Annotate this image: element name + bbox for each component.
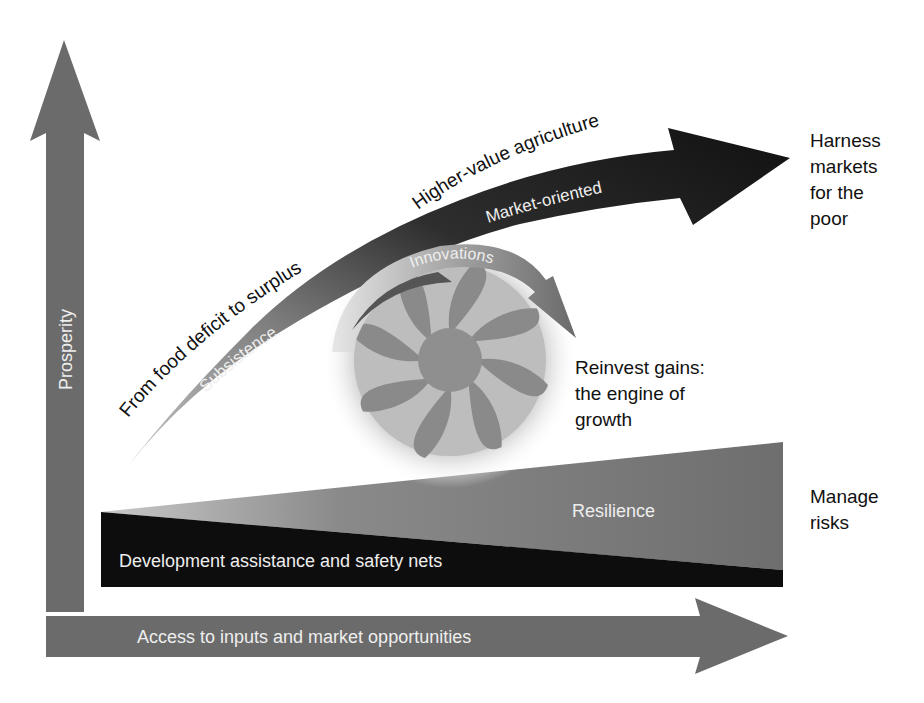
harness-line-1: Harness <box>810 128 881 154</box>
diagram-canvas: From food deficit to surplus Higher-valu… <box>0 0 924 703</box>
reinvest-gains-label: Reinvest gains: the engine of growth <box>575 355 705 433</box>
reinvest-line-2: the engine of <box>575 381 705 407</box>
label-resilience: Resilience <box>572 501 655 521</box>
harness-markets-label: Harness markets for the poor <box>810 128 881 232</box>
label-development-assistance: Development assistance and safety nets <box>119 551 442 571</box>
harness-line-4: poor <box>810 206 881 232</box>
risks-line-1: Manage <box>810 484 879 510</box>
reinvest-line-3: growth <box>575 407 705 433</box>
risks-line-2: risks <box>810 510 879 536</box>
label-access: Access to inputs and market opportunitie… <box>137 627 471 647</box>
label-prosperity: Prosperity <box>56 309 76 390</box>
harness-line-2: markets <box>810 154 881 180</box>
harness-line-3: for the <box>810 180 881 206</box>
reinvest-line-1: Reinvest gains: <box>575 355 705 381</box>
manage-risks-label: Manage risks <box>810 484 879 536</box>
